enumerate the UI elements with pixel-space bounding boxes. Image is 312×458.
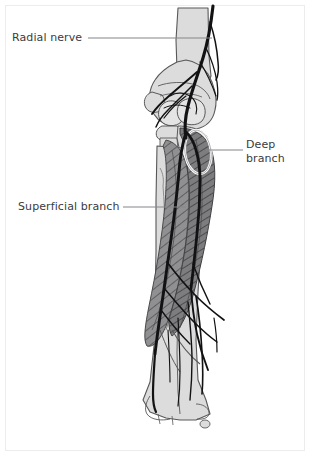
label-superficial-branch: Superficial branch [18,200,120,214]
label-radial-nerve: Radial nerve [12,31,82,45]
label-superficial-branch-line-1: Superficial branch [18,200,120,214]
anatomy-illustration-canvas [0,0,312,458]
label-deep-branch-line-1: Deep [246,138,306,152]
sensory-branch-short-lateral [214,318,217,352]
label-deep-branch-line-2: branch [246,152,306,166]
label-radial-nerve-line-1: Radial nerve [12,31,82,45]
ulnar-styloid-nub [200,420,210,428]
label-deep-branch: Deep branch [246,138,306,165]
anatomical-figure: Radial nerve Deep branch Superficial bra… [0,0,312,458]
trochlea [177,98,205,124]
